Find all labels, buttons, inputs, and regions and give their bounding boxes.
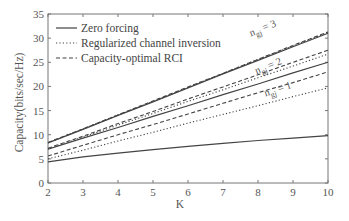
annotation-n-gj-3: ngj = 3 xyxy=(248,18,279,41)
annotation-label: ngj = 3 xyxy=(248,18,279,41)
x-axis-label: K xyxy=(176,198,185,210)
y-axis-ticks: 05101520253035 xyxy=(33,8,328,189)
x-tick-label: 4 xyxy=(115,186,121,198)
series-line-dotted-ngj1 xyxy=(48,88,328,159)
x-tick-label: 5 xyxy=(150,186,156,198)
y-tick-label: 10 xyxy=(33,129,45,141)
y-tick-label: 25 xyxy=(33,56,45,68)
y-tick-label: 35 xyxy=(33,8,45,20)
annotation-rest: = 2 xyxy=(264,55,283,71)
annotation-label: ngj = 2 xyxy=(253,55,284,78)
legend-label: Regularized channel inversion xyxy=(81,37,221,50)
legend: Zero forcingRegularized channel inversio… xyxy=(56,22,221,65)
x-tick-label: 3 xyxy=(80,186,86,198)
capacity-vs-k-chart: 2345678910 05101520253035 ngj = 3ngj = 2… xyxy=(0,0,349,221)
legend-label: Zero forcing xyxy=(81,22,139,35)
annotation-n-gj-2: ngj = 2 xyxy=(253,55,284,78)
annotation-rest: = 3 xyxy=(258,18,277,34)
series-line-solid-ngj1 xyxy=(48,136,328,162)
y-tick-label: 20 xyxy=(33,80,45,92)
x-tick-label: 9 xyxy=(290,186,296,198)
series-line-dashed-ngj2 xyxy=(48,50,328,148)
x-tick-label: 7 xyxy=(220,186,226,198)
y-tick-label: 30 xyxy=(33,32,45,44)
legend-label: Capacity-optimal RCI xyxy=(81,52,183,65)
annotation-rest: = 1 xyxy=(274,79,293,95)
y-tick-label: 15 xyxy=(33,105,45,117)
x-tick-label: 2 xyxy=(45,186,51,198)
annotations: ngj = 3ngj = 2ngj = 1 xyxy=(248,18,294,102)
x-tick-label: 6 xyxy=(185,186,191,198)
series-line-solid-ngj2 xyxy=(48,62,328,149)
x-tick-label: 10 xyxy=(323,186,335,198)
y-axis-label: Capacity(bits/sec/Hz) xyxy=(13,53,26,153)
y-tick-label: 0 xyxy=(39,177,45,189)
series-line-dotted-ngj2 xyxy=(48,54,328,149)
x-tick-label: 8 xyxy=(255,186,261,198)
y-tick-label: 5 xyxy=(39,153,45,165)
